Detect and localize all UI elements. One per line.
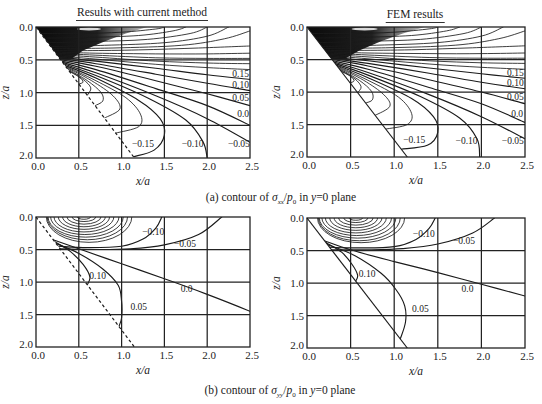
x-tick-label: 1.0: [389, 350, 403, 362]
caption-a-suffix: =0 plane: [316, 191, 356, 203]
x-tick-label: 0.0: [31, 160, 45, 172]
y-tick-label: 1.5: [19, 119, 33, 131]
y-tick-label: 2.0: [19, 338, 33, 350]
contour-label: −0.15: [403, 135, 425, 145]
x-tick-label: 1.0: [117, 349, 131, 361]
contour-line: [338, 67, 390, 115]
x-tick-label: 1.5: [160, 160, 174, 172]
plot-sigma-xx-current-method: 0.150.100.050.0−0.05−0.10−0.150.00.51.01…: [0, 21, 259, 187]
contour-label: 0.0: [237, 109, 249, 119]
caption-b-prefix: (b) contour of: [205, 384, 272, 396]
y-tick-label: 0.5: [19, 244, 33, 256]
x-tick-label: 2.5: [520, 350, 534, 362]
x-axis-label: x/a: [408, 174, 423, 186]
y-axis-label: z/a: [0, 86, 11, 101]
plot-sigma-yy-fem: −0.10−0.050.100.00.050.00.51.01.52.02.50…: [270, 212, 534, 377]
x-tick-label: 2.5: [245, 349, 259, 361]
x-tick-label: 0.5: [346, 159, 360, 171]
contour-label: −0.10: [456, 136, 478, 146]
x-tick-label: 1.5: [433, 350, 447, 362]
y-tick-label: 0.0: [290, 212, 304, 224]
y-tick-label: 1.5: [19, 309, 33, 321]
y-tick-label: 0.5: [19, 54, 33, 66]
y-tick-label: 1.5: [290, 310, 304, 322]
x-tick-label: 0.5: [74, 349, 88, 361]
y-tick-label: 0.5: [290, 245, 304, 257]
plot-sigma-yy-current-method: −0.10−0.050.100.00.050.00.51.01.52.02.50…: [0, 211, 259, 376]
x-tick-label: 1.5: [160, 349, 174, 361]
x-tick-label: 2.0: [202, 349, 216, 361]
x-tick-label: 2.5: [245, 160, 259, 172]
contour-label: −0.05: [228, 139, 250, 149]
y-tick-label: 2.0: [290, 339, 304, 351]
plot-sigma-xx-fem: 0.150.100.050.0−0.05−0.10−0.150.00.51.01…: [270, 21, 534, 186]
y-tick-label: 1.0: [290, 86, 304, 98]
contour-label: −0.15: [132, 139, 154, 149]
x-tick-label: 0.0: [31, 349, 45, 361]
contour-label: −0.10: [182, 139, 204, 149]
caption-panel-b: (b) contour of σyy/p0 in y=0 plane: [205, 383, 356, 402]
caption-a-prefix: (a) contour of: [206, 191, 272, 203]
x-tick-label: 1.5: [433, 159, 447, 171]
y-axis-label: z/a: [270, 276, 282, 291]
x-axis-label: x/a: [135, 364, 150, 376]
x-tick-label: 2.0: [477, 350, 491, 362]
x-axis-label: x/a: [135, 175, 150, 187]
y-tick-label: 1.5: [290, 119, 304, 131]
contour-label: 0.15: [507, 68, 524, 78]
y-tick-label: 1.0: [19, 276, 33, 288]
contour-highlight: [77, 28, 101, 31]
contour-line-labeled: [53, 240, 250, 311]
y-tick-label: 0.0: [19, 211, 33, 223]
contour-line: [66, 66, 142, 133]
x-axis-label: x/a: [408, 365, 423, 377]
x-tick-label: 0.5: [74, 160, 88, 172]
x-tick-label: 2.5: [520, 159, 534, 171]
contour-label: 0.10: [89, 271, 106, 281]
contour-line-labeled: [57, 244, 122, 327]
contour-label: −0.05: [174, 239, 196, 249]
caption-a-in: in: [296, 191, 311, 203]
x-tick-label: 1.0: [117, 160, 131, 172]
column-title-fem: FEM results: [386, 8, 445, 23]
caption-b-suffix: =0 plane: [315, 384, 355, 396]
x-tick-label: 2.0: [202, 160, 216, 172]
caption-b-in: in: [296, 384, 311, 396]
y-tick-label: 0.0: [19, 21, 33, 33]
contour-label: 0.0: [181, 284, 193, 294]
contour-label: 0.15: [232, 69, 249, 79]
y-tick-label: 1.0: [19, 87, 33, 99]
contour-label: −0.10: [142, 227, 164, 237]
contour-line: [55, 52, 250, 54]
y-tick-label: 1.0: [290, 277, 304, 289]
contour-line: [68, 69, 104, 106]
contour-label: 0.10: [232, 80, 249, 90]
column-title-current-method: Results with current method: [76, 6, 208, 21]
contour-label: 0.0: [462, 284, 474, 294]
y-tick-label: 2.0: [290, 148, 304, 160]
y-tick-label: 0.5: [290, 54, 304, 66]
contour-label: 0.05: [130, 302, 147, 312]
contour-label: 0.05: [412, 304, 429, 314]
contour-line: [339, 69, 373, 103]
contour-highlight: [351, 28, 377, 31]
contour-label: 0.05: [232, 93, 249, 103]
x-tick-label: 0.0: [302, 159, 316, 171]
y-tick-label: 0.0: [290, 21, 304, 33]
y-axis-label: z/a: [270, 85, 282, 100]
contour-label: 0.10: [507, 78, 524, 88]
contour-label: 0.05: [507, 92, 524, 102]
x-tick-label: 0.5: [346, 350, 360, 362]
y-tick-label: 2.0: [19, 149, 33, 161]
contour-label: −0.05: [502, 136, 524, 146]
contour-label: 0.10: [359, 269, 376, 279]
caption-panel-a: (a) contour of σxx/p0 in y=0 plane: [206, 190, 356, 209]
contour-label: 0.0: [511, 109, 523, 119]
x-tick-label: 0.0: [302, 350, 316, 362]
contour-label: −0.10: [413, 229, 435, 239]
contour-label: −0.05: [453, 236, 475, 246]
y-axis-label: z/a: [0, 275, 11, 290]
x-tick-label: 2.0: [477, 159, 491, 171]
x-tick-label: 1.0: [389, 159, 403, 171]
